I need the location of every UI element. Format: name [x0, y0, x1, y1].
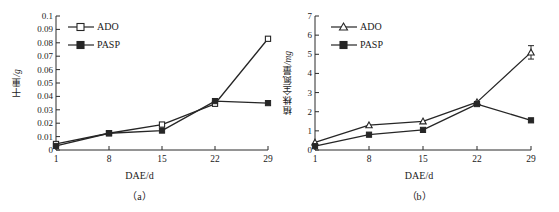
- legend-label-pasp-a: PASP: [97, 39, 120, 50]
- legend-item-pasp-b: PASP: [331, 38, 383, 50]
- panel-caption-b: （b）: [279, 188, 559, 203]
- chart-panel-b: 植株全氮量/mg 01234567 18152229 ADO PASP DAE/…: [279, 0, 559, 212]
- legend-label-pasp-b: PASP: [360, 39, 383, 50]
- legend-marker-ado-a: [68, 22, 94, 32]
- legend-marker-pasp-b: [331, 40, 357, 50]
- legend-marker-ado-b: [331, 22, 357, 32]
- legend-item-ado-b: ADO: [331, 20, 382, 32]
- x-axis-label-b: DAE/d: [279, 170, 559, 181]
- legend-marker-pasp-a: [68, 40, 94, 50]
- panel-caption-a: （a）: [0, 188, 279, 203]
- legend-item-ado-a: ADO: [68, 20, 119, 32]
- figure-container: 干重/g 00.010.020.030.040.050.060.070.080.…: [0, 0, 559, 212]
- x-axis-label-a: DAE/d: [0, 170, 279, 181]
- legend-label-ado-b: ADO: [360, 21, 382, 32]
- chart-panel-a: 干重/g 00.010.020.030.040.050.060.070.080.…: [0, 0, 279, 212]
- legend-label-ado-a: ADO: [97, 21, 119, 32]
- legend-item-pasp-a: PASP: [68, 38, 120, 50]
